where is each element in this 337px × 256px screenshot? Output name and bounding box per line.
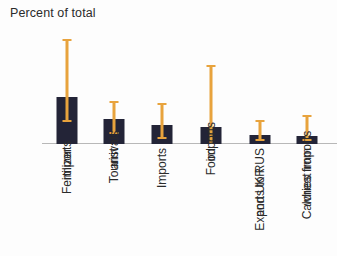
bar-group: [236, 30, 284, 144]
bar-group: [138, 30, 186, 144]
category-label-line: imports: [61, 141, 74, 180]
category-label-line: imports: [205, 122, 218, 161]
bar-group: [283, 30, 331, 144]
plot-area: 60 40 20 0: [45, 30, 333, 144]
category-label-line: wheat imports: [301, 131, 314, 206]
category-label-line: arrivals: [108, 131, 121, 170]
category-label: Touristarrivals: [108, 148, 121, 183]
error-bar-line: [161, 104, 164, 138]
category-label: Exports to RUSand UKR: [254, 148, 267, 231]
error-bar-cap-upper: [303, 115, 312, 117]
error-bar-cap-lower: [256, 139, 265, 141]
category-label: Imports: [156, 148, 169, 188]
bar-group: [90, 30, 138, 144]
category-label: Foodimports: [205, 148, 218, 175]
error-bar-cap-upper: [63, 39, 72, 41]
bar-chart: Percent of total 60 40 20 0 Fertilizerim…: [0, 0, 337, 256]
error-bar-line: [66, 40, 69, 122]
error-bar-cap-upper: [158, 103, 167, 105]
category-label: Fertilizerimports: [61, 148, 74, 194]
error-bar-cap-lower: [63, 120, 72, 122]
error-bar-cap-lower: [158, 137, 167, 139]
error-bar-cap-upper: [256, 120, 265, 122]
error-bar-cap-upper: [207, 65, 216, 67]
category-label: Calories fromwheat imports: [301, 148, 314, 219]
chart-title: Percent of total: [10, 6, 96, 20]
error-bar-cap-upper: [110, 101, 119, 103]
category-label-line: Imports: [156, 148, 169, 188]
error-bar-line: [113, 102, 116, 132]
error-bar-line: [259, 121, 262, 140]
bar-group: [43, 30, 91, 144]
category-label-line: and UKR: [254, 168, 267, 217]
